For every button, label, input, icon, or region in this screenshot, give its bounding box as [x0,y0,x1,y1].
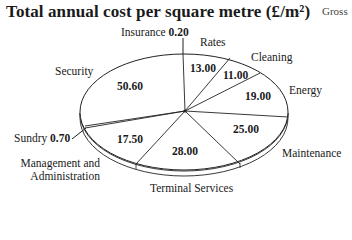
value-terminal-services: 28.00 [172,145,198,157]
value-energy: 19.00 [245,90,271,102]
value-rates: 13.00 [190,62,216,74]
label-cleaning: Cleaning [251,51,293,64]
label-rates: Rates [200,36,226,49]
value-cleaning: 11.00 [223,69,248,81]
value-security: 50.60 [117,80,143,92]
label-sundry: Sundry 0.70 [14,132,70,145]
value-management: 17.50 [117,133,143,145]
label-security: Security [55,65,93,78]
label-energy: Energy [289,84,322,97]
label-insurance: Insurance 0.20 [121,26,189,39]
value-maintenance: 25.00 [233,123,259,135]
label-management: Management andAdministration [20,157,100,183]
label-terminal-services: Terminal Services [150,182,233,195]
label-maintenance: Maintenance [282,147,341,160]
